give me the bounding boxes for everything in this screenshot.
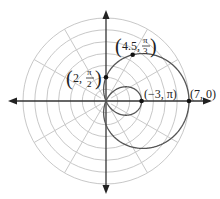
- point-label-neg3-pi: (−3, π): [144, 87, 177, 101]
- grid-spoke: [111, 104, 178, 143]
- grid-spoke: [34, 104, 101, 143]
- svg-text:(−3, π): (−3, π): [144, 87, 177, 101]
- point-label-7-0: (7, 0): [190, 87, 216, 101]
- svg-text:): ): [150, 35, 157, 58]
- axes: [8, 10, 212, 194]
- svg-text:3: 3: [143, 46, 148, 56]
- y-axis-up-arrow: [103, 10, 110, 19]
- svg-text:π: π: [143, 35, 148, 45]
- grid-spoke: [109, 106, 148, 173]
- svg-text:(: (: [115, 35, 122, 58]
- polar-graph: ( 4.5, π 3 ) ( 2, π 2 ) (−3, π) (7, 0): [0, 0, 220, 199]
- svg-text:2,: 2,: [73, 71, 82, 85]
- grid-spoke: [65, 106, 104, 173]
- svg-text:(7, 0): (7, 0): [190, 87, 216, 101]
- svg-text:(: (: [66, 67, 73, 90]
- x-axis-left-arrow: [8, 98, 17, 105]
- svg-text:2: 2: [87, 79, 92, 89]
- svg-text:): ): [95, 67, 102, 90]
- data-point: [104, 75, 109, 80]
- svg-text:π: π: [87, 67, 92, 77]
- data-point: [130, 52, 135, 57]
- svg-text:4.5,: 4.5,: [122, 39, 140, 53]
- y-axis-down-arrow: [103, 185, 110, 194]
- point-label-2-pi-over-2: ( 2, π 2 ): [66, 67, 102, 90]
